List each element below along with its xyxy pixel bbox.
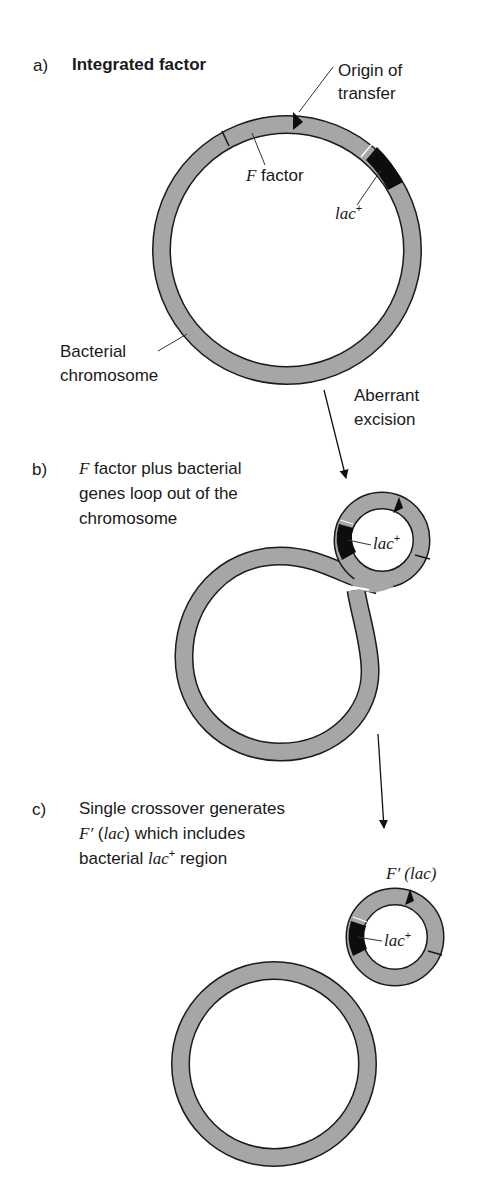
- f-prime-lac-label: F′ (lac): [386, 862, 436, 885]
- f-factor-label-italic: F: [246, 166, 256, 185]
- lac-label-b-sup: +: [394, 532, 400, 544]
- lac-label-b: lac+: [373, 532, 400, 555]
- lac-label-a: lac+: [335, 202, 362, 225]
- bacterial-leader: [158, 334, 187, 351]
- lac-label-a-sup: +: [356, 202, 362, 214]
- origin-of-transfer-label-1: Origin of: [338, 59, 402, 82]
- panel-b-letter: b): [32, 460, 47, 480]
- panel-b-line-3: chromosome: [79, 506, 242, 531]
- diagram-canvas: [0, 0, 484, 1204]
- panel-c-paren: (: [93, 824, 103, 843]
- chromosome-a: [158, 67, 413, 376]
- panel-b-description: F factor plus bacterial genes loop out o…: [79, 456, 242, 531]
- panel-c-letter: c): [32, 800, 46, 820]
- origin-leader: [299, 67, 333, 112]
- panel-b-line-1-rest: factor plus bacterial: [89, 459, 241, 478]
- panel-c-line-3-rest: region: [175, 849, 227, 868]
- f-factor-label-rest: factor: [256, 166, 303, 185]
- f-factor-label: F factor: [246, 164, 304, 187]
- bacterial-chromosome-label-2: chromosome: [60, 364, 158, 387]
- panel-b-line-1: F factor plus bacterial: [79, 456, 242, 481]
- panel-b-f-italic: F: [79, 459, 89, 478]
- panel-c-line-1: Single crossover generates: [79, 796, 285, 821]
- panel-c-line-3-lac: lac: [148, 849, 169, 868]
- panel-c-f-prime: F′: [79, 824, 93, 843]
- panel-b-line-2: genes loop out of the: [79, 481, 242, 506]
- aberrant-excision-label-2: excision: [354, 408, 415, 431]
- chromosome-c: [181, 971, 368, 1158]
- panel-c-line-2-rest: ) which includes: [124, 824, 245, 843]
- origin-of-transfer-label-2: transfer: [338, 82, 396, 105]
- panel-c-description: Single crossover generates F′ (lac) whic…: [79, 796, 285, 871]
- arrow-crossover: [378, 734, 384, 828]
- panel-c-line-3-prefix: bacterial: [79, 849, 148, 868]
- panel-c-line-2: F′ (lac) which includes: [79, 821, 285, 846]
- panel-c-line-3: bacterial lac+ region: [79, 846, 285, 871]
- f-factor-leader: [252, 133, 265, 165]
- bacterial-chromosome-label-1: Bacterial: [60, 340, 126, 363]
- lac-label-a-text: lac: [335, 204, 356, 223]
- arrow-aberrant-excision: [324, 390, 346, 478]
- lac-leader-a: [357, 170, 381, 205]
- panel-a-letter: a): [33, 56, 48, 76]
- lac-label-c-sup: +: [405, 929, 411, 941]
- lac-label-c-text: lac: [384, 931, 405, 950]
- lac-label-b-text: lac: [373, 534, 394, 553]
- aberrant-excision-label-1: Aberrant: [354, 384, 419, 407]
- panel-c-lac: lac: [104, 824, 125, 843]
- panel-a-title: Integrated factor: [72, 53, 206, 76]
- lac-label-c: lac+: [384, 929, 411, 952]
